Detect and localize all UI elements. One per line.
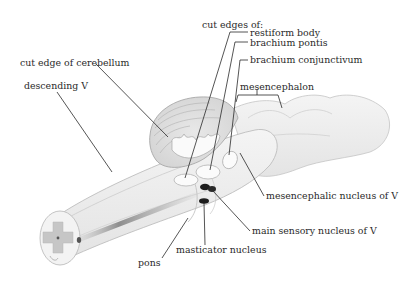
label-masticator-nucleus: masticator nucleus [176,245,267,254]
label-descending-v: descending V [24,81,88,90]
label-restiform-body: restiform body [250,28,320,37]
label-pons: pons [138,258,161,267]
label-brachium-conjunctivum: brachium conjunctivum [250,55,362,64]
label-cut-edge-of-cerebellum: cut edge of cerebellum [20,58,130,67]
label-brachium-pontis: brachium pontis [250,38,328,47]
brainstem-illustration [0,0,404,285]
brachium-pontis-cut [196,165,220,179]
masticator-nucleus-shape [199,198,209,204]
label-main-sensory-nucleus-of-v: main sensory nucleus of V [252,226,377,235]
label-mesencephalic-nucleus-of-v: mesencephalic nucleus of V [266,191,398,200]
label-mesencephalon: mesencephalon [240,82,314,91]
